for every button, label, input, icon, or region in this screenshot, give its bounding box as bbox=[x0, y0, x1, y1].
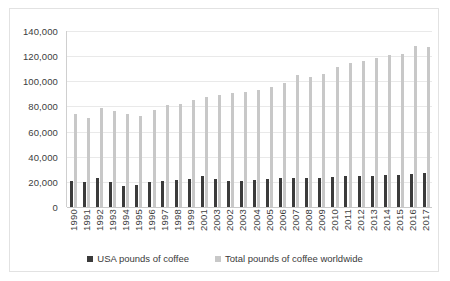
bar-worldwide bbox=[427, 47, 430, 207]
bar-usa bbox=[70, 181, 73, 207]
bar-usa bbox=[397, 175, 400, 207]
x-axis-tick-label: 1997 bbox=[159, 209, 170, 231]
bar-group bbox=[279, 31, 286, 207]
bar-group bbox=[70, 31, 77, 207]
bar-worldwide bbox=[218, 95, 221, 207]
y-axis-tick-label: 60,000 bbox=[28, 126, 58, 137]
bar-group bbox=[305, 31, 312, 207]
bar-usa bbox=[240, 181, 243, 207]
bars-layer bbox=[67, 31, 432, 207]
bar-worldwide bbox=[322, 74, 325, 207]
bar-usa bbox=[201, 176, 204, 207]
x-axis-tick-label: 1991 bbox=[81, 209, 92, 231]
chart-container: 020,00040,00060,00080,000100,000120,0001… bbox=[9, 8, 439, 272]
x-axis-tick-label: 1996 bbox=[146, 209, 157, 231]
y-axis-tick-label: 40,000 bbox=[28, 151, 58, 162]
bar-worldwide bbox=[401, 54, 404, 207]
bar-usa bbox=[410, 174, 413, 207]
legend-item[interactable]: USA pounds of coffee bbox=[87, 253, 189, 264]
bar-worldwide bbox=[414, 46, 417, 207]
y-axis: 020,00040,00060,00080,000100,000120,0001… bbox=[10, 31, 62, 207]
x-axis-tick-label: 2002 bbox=[224, 209, 235, 231]
legend-label: USA pounds of coffee bbox=[97, 253, 189, 264]
bar-usa bbox=[122, 186, 125, 207]
x-axis-tick-label: 2005 bbox=[264, 209, 275, 231]
bar-group bbox=[331, 31, 338, 207]
bar-group bbox=[240, 31, 247, 207]
bar-worldwide bbox=[166, 105, 169, 207]
x-axis-tick-label: 2011 bbox=[342, 209, 353, 230]
bar-usa bbox=[384, 175, 387, 207]
bar-usa bbox=[96, 178, 99, 207]
legend-swatch-icon bbox=[87, 256, 93, 262]
bar-usa bbox=[161, 181, 164, 207]
bar-worldwide bbox=[244, 92, 247, 207]
x-axis-tick-label: 2003 bbox=[237, 209, 248, 231]
x-axis-tick-label: 2016 bbox=[407, 209, 418, 231]
bar-group bbox=[148, 31, 155, 207]
bar-usa bbox=[423, 173, 426, 207]
x-axis-tick-label: 1992 bbox=[94, 209, 105, 231]
bar-group bbox=[344, 31, 351, 207]
y-axis-tick-label: 80,000 bbox=[28, 101, 58, 112]
x-axis-tick-label: 2010 bbox=[329, 209, 340, 231]
x-axis: 1990199119921993199419951996199719981999… bbox=[66, 209, 432, 251]
x-axis-tick-label: 2013 bbox=[368, 209, 379, 231]
x-axis-tick-label: 1998 bbox=[172, 209, 183, 231]
bar-usa bbox=[279, 178, 282, 207]
legend-swatch-icon bbox=[215, 256, 221, 262]
bar-group bbox=[135, 31, 142, 207]
bar-group bbox=[358, 31, 365, 207]
bar-group bbox=[384, 31, 391, 207]
bar-usa bbox=[148, 182, 151, 207]
bar-group bbox=[266, 31, 273, 207]
bar-group bbox=[397, 31, 404, 207]
bar-worldwide bbox=[100, 108, 103, 207]
bar-worldwide bbox=[309, 77, 312, 207]
bar-usa bbox=[305, 178, 308, 207]
gridline bbox=[67, 207, 432, 208]
bar-group bbox=[188, 31, 195, 207]
bar-worldwide bbox=[126, 114, 129, 207]
x-axis-tick-label: 2012 bbox=[355, 209, 366, 231]
bar-worldwide bbox=[139, 116, 142, 207]
bar-worldwide bbox=[362, 61, 365, 207]
y-axis-tick-label: 120,000 bbox=[23, 51, 58, 62]
bar-worldwide bbox=[375, 58, 378, 207]
x-axis-tick-label: 2006 bbox=[277, 209, 288, 231]
bar-worldwide bbox=[192, 100, 195, 207]
x-axis-tick-label: 1995 bbox=[133, 209, 144, 231]
x-axis-tick-label: 2003 bbox=[211, 209, 222, 231]
x-axis-tick-label: 2004 bbox=[251, 209, 262, 231]
bar-group bbox=[161, 31, 168, 207]
bar-worldwide bbox=[283, 83, 286, 207]
bar-worldwide bbox=[296, 75, 299, 207]
bar-worldwide bbox=[179, 104, 182, 207]
y-axis-tick-label: 100,000 bbox=[23, 76, 58, 87]
bar-usa bbox=[266, 179, 269, 207]
bar-usa bbox=[227, 181, 230, 207]
bar-worldwide bbox=[153, 110, 156, 207]
bar-group bbox=[109, 31, 116, 207]
bar-worldwide bbox=[205, 97, 208, 207]
bar-worldwide bbox=[257, 90, 260, 207]
bar-usa bbox=[371, 176, 374, 207]
bar-worldwide bbox=[349, 63, 352, 207]
bar-usa bbox=[175, 180, 178, 207]
legend-item[interactable]: Total pounds of coffee worldwide bbox=[215, 253, 363, 264]
bar-usa bbox=[331, 177, 334, 207]
bar-worldwide bbox=[231, 93, 234, 207]
bar-usa bbox=[214, 179, 217, 207]
bar-worldwide bbox=[113, 111, 116, 207]
bar-usa bbox=[292, 178, 295, 207]
x-axis-tick-label: 1990 bbox=[68, 209, 79, 231]
y-axis-tick-label: 20,000 bbox=[28, 176, 58, 187]
x-axis-tick-label: 2008 bbox=[303, 209, 314, 231]
x-axis-tick-label: 1999 bbox=[185, 209, 196, 231]
bar-usa bbox=[318, 178, 321, 207]
bar-usa bbox=[188, 179, 191, 207]
x-axis-tick-label: 1994 bbox=[120, 209, 131, 231]
bar-usa bbox=[344, 176, 347, 207]
bar-group bbox=[318, 31, 325, 207]
bar-worldwide bbox=[74, 114, 77, 207]
